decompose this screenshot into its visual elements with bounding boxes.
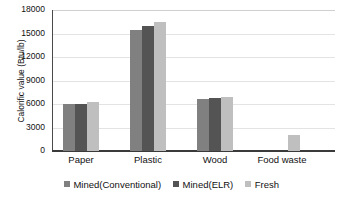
bar xyxy=(75,104,87,151)
y-tick-label: 12000 xyxy=(0,52,45,61)
bar xyxy=(209,98,221,151)
y-tick-label: 9000 xyxy=(0,76,45,85)
legend-label: Mined(ELR) xyxy=(183,179,234,190)
bar xyxy=(63,104,75,151)
legend-label: Mined(Conventional) xyxy=(73,179,161,190)
y-axis-tick-labels: 0300060009000120001500018000 xyxy=(0,0,49,199)
y-tick-label: 18000 xyxy=(0,5,45,14)
bar xyxy=(197,99,209,151)
bar-group xyxy=(130,10,166,151)
bar xyxy=(87,102,99,151)
bar-group xyxy=(63,10,99,151)
bar xyxy=(288,135,300,151)
x-tick-label: Food waste xyxy=(242,153,322,166)
legend-item[interactable]: Mined(Conventional) xyxy=(64,179,161,190)
bar-chart: Calorific value (Btu/lb) 030006000900012… xyxy=(0,0,343,199)
legend-swatch-icon xyxy=(64,181,70,187)
bar xyxy=(221,97,233,151)
legend-item[interactable]: Mined(ELR) xyxy=(173,179,233,190)
legend-item[interactable]: Fresh xyxy=(245,179,279,190)
bar-group xyxy=(197,10,233,151)
y-tick-label: 3000 xyxy=(0,123,45,132)
bar-groups xyxy=(52,10,335,151)
legend-label: Fresh xyxy=(255,179,279,190)
y-tick-label: 0 xyxy=(0,146,45,155)
x-axis-tick-labels: PaperPlasticWoodFood waste xyxy=(52,153,335,169)
legend-swatch-icon xyxy=(173,181,179,187)
bar-group xyxy=(264,10,300,151)
y-tick-label: 6000 xyxy=(0,99,45,108)
chart-legend: Mined(Conventional)Mined(ELR)Fresh xyxy=(0,176,343,192)
bar xyxy=(142,26,154,151)
legend-swatch-icon xyxy=(245,181,251,187)
y-tick-label: 15000 xyxy=(0,29,45,38)
bar xyxy=(154,22,166,151)
bar xyxy=(130,30,142,151)
